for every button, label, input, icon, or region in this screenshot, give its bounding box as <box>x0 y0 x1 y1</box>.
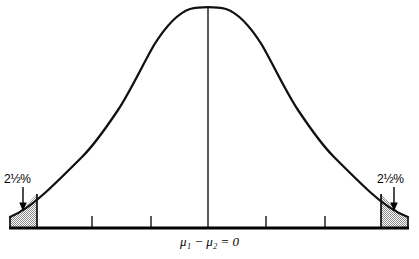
distribution-plot <box>0 0 419 259</box>
left-tail-percent-label: 2½% <box>4 172 31 186</box>
normal-curve <box>10 7 408 217</box>
right-tail-percent-label: 2½% <box>377 172 404 186</box>
axis-center-label: μ₁ − μ₂ = 0 <box>0 234 419 250</box>
normal-distribution-figure: 2½% 2½% μ₁ − μ₂ = 0 <box>0 0 419 259</box>
